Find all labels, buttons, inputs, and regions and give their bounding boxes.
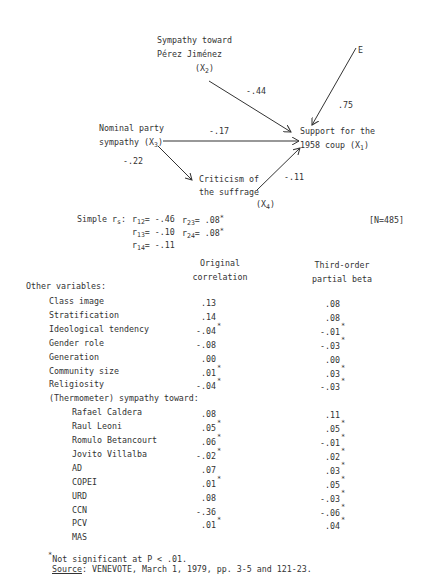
significance-marker: * xyxy=(341,365,345,372)
coef-x4-x1: -.11 xyxy=(284,173,304,181)
table-row-label: URD xyxy=(72,491,87,501)
node-x4: Criticism of the suffrage (X4) xyxy=(199,175,275,211)
partial-beta-value: .03 xyxy=(313,466,340,476)
table-row-label: Rafael Caldera xyxy=(72,407,142,417)
original-correlation-value: .14 xyxy=(190,312,216,322)
table-row-label: Religiosity xyxy=(49,379,104,389)
partial-beta-value: .05 xyxy=(313,480,340,490)
table-row-label: Romulo Betancourt xyxy=(72,435,157,445)
original-correlation-value: .06 xyxy=(190,437,216,447)
simple-r-13: r13= -.10 xyxy=(132,228,175,239)
partial-beta-value: .00 xyxy=(313,355,340,365)
significance-marker: * xyxy=(217,420,221,427)
original-correlation-value: -.08 xyxy=(190,340,216,350)
sample-size: [N=485] xyxy=(369,216,404,224)
node-x3-line1: Nominal party xyxy=(99,124,164,138)
node-x2-line1: Sympathy toward xyxy=(157,36,232,50)
significance-marker: * xyxy=(217,448,221,455)
significance-marker: * xyxy=(217,434,221,441)
table-row-label: Gender role xyxy=(49,338,104,348)
original-correlation-value: .08 xyxy=(190,409,216,419)
original-correlation-value: .13 xyxy=(190,298,216,308)
significance-marker: * xyxy=(217,323,221,330)
table-row-label: Community size xyxy=(49,366,119,376)
original-correlation-value: .01 xyxy=(190,479,216,489)
footnote-significance: *Not significant at P < .01. xyxy=(48,552,187,563)
table-row-label: Generation xyxy=(49,352,99,362)
significance-marker: * xyxy=(341,517,345,524)
coef-x3-x1: -.17 xyxy=(209,127,229,135)
partial-beta-value: -.03 xyxy=(313,382,340,392)
coef-e-x1: .75 xyxy=(338,101,353,109)
node-x4-var: (X4) xyxy=(199,200,275,211)
table-row-label: Raul Leoni xyxy=(72,421,122,431)
significance-marker: * xyxy=(341,490,345,497)
simple-r-23: r23= .08* xyxy=(182,215,224,227)
original-correlation-value: -.36 xyxy=(190,507,216,517)
significance-marker: * xyxy=(217,365,221,372)
footnote-source: Source: VENEVOTE, March 1, 1979, pp. 3-5… xyxy=(52,565,312,573)
table-row-label: PCV xyxy=(72,518,87,528)
original-correlation-value: .08 xyxy=(190,493,216,503)
partial-beta-value: -.06 xyxy=(313,508,340,518)
partial-beta-value: .03 xyxy=(313,369,340,379)
partial-beta-value: -.03 xyxy=(313,341,340,351)
table-row-label: CCN xyxy=(72,505,87,515)
partial-beta-value: .04 xyxy=(313,521,340,531)
original-correlation-value: -.04 xyxy=(190,326,216,336)
significance-marker: * xyxy=(341,378,345,385)
original-correlation-value: .00 xyxy=(190,354,216,364)
partial-beta-value: .02 xyxy=(313,452,340,462)
node-x3-line2: sympathy (X3) xyxy=(99,138,164,149)
partial-beta-value: .08 xyxy=(313,299,340,309)
simple-r-14: r14= -.11 xyxy=(132,241,175,252)
significance-marker: * xyxy=(217,378,221,385)
simple-r-12: r12= -.46 xyxy=(132,215,175,226)
simple-r-label: Simple rs: xyxy=(77,215,126,226)
significance-marker: * xyxy=(341,448,345,455)
significance-marker: * xyxy=(341,476,345,483)
section-label-other-variables: Other variables: xyxy=(26,282,106,290)
original-correlation-value: .05 xyxy=(190,423,216,433)
significance-marker: * xyxy=(217,517,221,524)
significance-marker: * xyxy=(217,476,221,483)
partial-beta-value: -.01 xyxy=(313,327,340,337)
col-header-original: Original correlation xyxy=(190,259,250,281)
node-x2: Sympathy toward Pérez Jiménez (X2) xyxy=(157,36,232,75)
partial-beta-value: -.03 xyxy=(313,494,340,504)
table-row-label: Stratification xyxy=(49,310,119,320)
coef-x3-x4: -.22 xyxy=(123,157,143,165)
original-correlation-value: .07 xyxy=(190,465,216,475)
original-correlation-value: -.04 xyxy=(190,381,216,391)
table-row-label: Class image xyxy=(49,296,104,306)
node-x1-line1: Support for the xyxy=(300,127,375,141)
significance-marker: * xyxy=(341,323,345,330)
node-x2-var: (X2) xyxy=(157,64,232,75)
node-x2-line2: Pérez Jiménez xyxy=(157,50,232,64)
significance-marker: * xyxy=(341,462,345,469)
simple-r-24: r24= .08* xyxy=(182,228,224,240)
significance-marker: * xyxy=(341,504,345,511)
partial-beta-value: -.01 xyxy=(313,438,340,448)
partial-beta-value: .05 xyxy=(313,424,340,434)
table-row-label: Ideological tendency xyxy=(49,324,149,334)
coef-x2-x1: -.44 xyxy=(246,87,266,95)
node-x3: Nominal party sympathy (X3) xyxy=(99,124,164,149)
original-correlation-value: -.02 xyxy=(190,451,216,461)
significance-marker: * xyxy=(341,337,345,344)
partial-beta-value: .11 xyxy=(313,410,340,420)
node-error-term: E xyxy=(358,46,363,54)
node-x1-line2: 1958 coup (X1) xyxy=(300,141,375,152)
table-row-label: (Thermometer) sympathy toward: xyxy=(49,393,199,403)
significance-marker: * xyxy=(341,420,345,427)
table-row-label: AD xyxy=(72,463,82,473)
node-x1: Support for the 1958 coup (X1) xyxy=(300,127,375,152)
table-row-label: MAS xyxy=(72,532,87,542)
significance-marker: * xyxy=(341,434,345,441)
partial-beta-value: .08 xyxy=(313,313,340,323)
original-correlation-value: .01 xyxy=(190,520,216,530)
table-row-label: COPEI xyxy=(72,477,97,487)
col-header-partial-beta: Third-order partial beta xyxy=(312,261,372,283)
original-correlation-value: .01 xyxy=(190,368,216,378)
table-row-label: Jovito Villalba xyxy=(72,449,147,459)
